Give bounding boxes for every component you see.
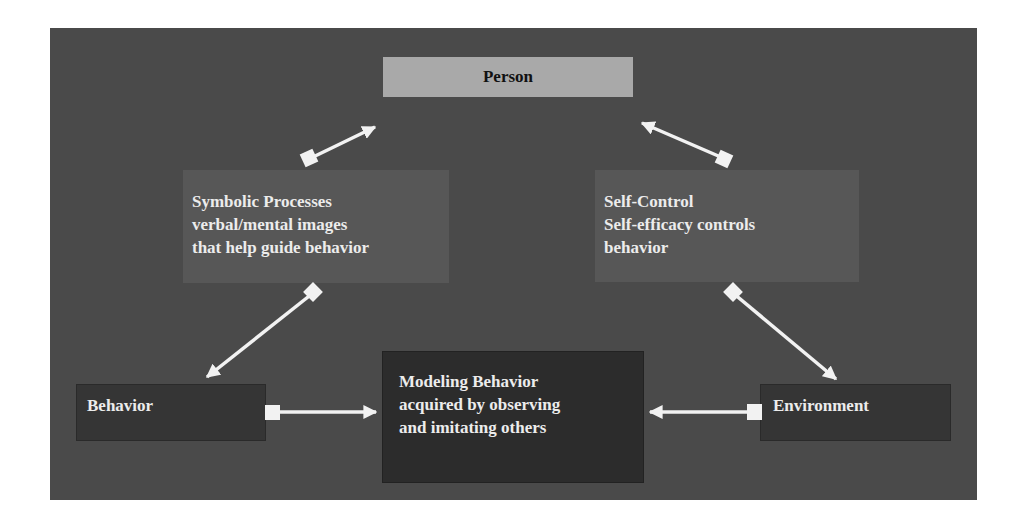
node-environment: Environment	[760, 384, 951, 441]
node-modeling-desc-1: acquired by observing	[399, 393, 643, 416]
node-symbolic-desc-1: verbal/mental images	[192, 213, 449, 236]
node-selfcontrol-desc-1: Self-efficacy controls	[604, 213, 859, 236]
node-modeling-title: Modeling Behavior	[399, 370, 643, 393]
node-symbolic-desc-2: that help guide behavior	[192, 236, 449, 259]
node-symbolic-title: Symbolic Processes	[192, 190, 449, 213]
node-modeling-behavior: Modeling Behavior acquired by observing …	[382, 351, 644, 483]
node-person-label: Person	[383, 57, 633, 97]
node-selfcontrol-title: Self-Control	[604, 190, 859, 213]
node-behavior: Behavior	[76, 384, 266, 441]
node-self-control: Self-Control Self-efficacy controls beha…	[595, 170, 859, 282]
node-behavior-label: Behavior	[87, 395, 265, 417]
node-person: Person	[383, 57, 633, 97]
node-environment-label: Environment	[773, 395, 950, 417]
node-modeling-desc-2: and imitating others	[399, 416, 643, 439]
node-selfcontrol-desc-2: behavior	[604, 236, 859, 259]
node-symbolic-processes: Symbolic Processes verbal/mental images …	[183, 170, 449, 283]
